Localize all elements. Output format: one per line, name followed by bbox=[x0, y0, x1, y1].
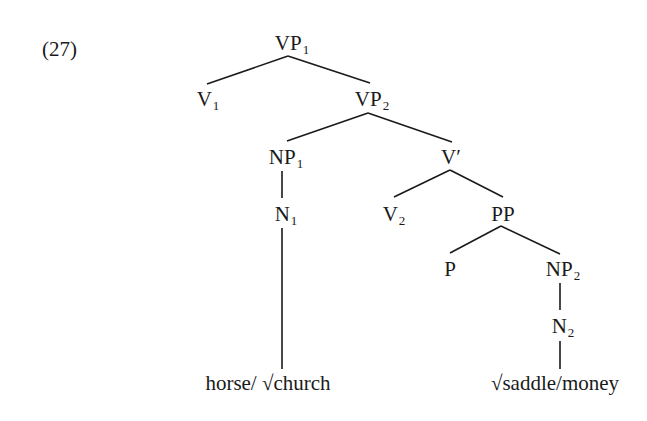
leaf-n1: horse/ √church bbox=[205, 373, 330, 394]
node-vp2-category: VP bbox=[355, 87, 382, 111]
edge-vp1-vp2 bbox=[288, 56, 370, 83]
node-p-category: P bbox=[444, 257, 456, 281]
edge-vp2-np1 bbox=[287, 113, 368, 141]
edge-vbar-pp bbox=[450, 170, 503, 197]
node-np2: NP2 bbox=[546, 259, 580, 282]
node-v1: V1 bbox=[197, 89, 220, 112]
node-v2-category: V bbox=[383, 202, 398, 226]
node-vp2-index: 2 bbox=[383, 98, 390, 113]
node-v1-index: 1 bbox=[213, 98, 220, 113]
node-np1-category: NP bbox=[269, 145, 296, 169]
node-vbar-category: V′ bbox=[441, 145, 461, 169]
node-vp1: VP1 bbox=[275, 33, 309, 56]
edge-pp-p bbox=[450, 226, 501, 253]
leaf-n2: √saddle/money bbox=[491, 373, 619, 394]
tree-edges bbox=[0, 0, 647, 421]
node-vp1-category: VP bbox=[275, 31, 302, 55]
node-n1-category: N bbox=[275, 202, 290, 226]
node-n2-index: 2 bbox=[568, 325, 575, 340]
node-vp2: VP2 bbox=[355, 89, 389, 112]
node-n2: N2 bbox=[552, 316, 575, 339]
edge-vp2-vbar bbox=[368, 113, 452, 142]
node-pp-category: PP bbox=[491, 202, 514, 226]
node-v2-index: 2 bbox=[399, 213, 406, 228]
node-n1: N1 bbox=[275, 204, 298, 227]
edge-vbar-v2 bbox=[394, 170, 450, 197]
edge-vp1-v1 bbox=[207, 56, 288, 84]
edge-pp-np2 bbox=[501, 226, 560, 254]
node-n1-index: 1 bbox=[291, 213, 298, 228]
node-vbar: V′ bbox=[441, 147, 461, 168]
node-np2-category: NP bbox=[546, 257, 573, 281]
node-vp1-index: 1 bbox=[303, 42, 310, 57]
node-np2-index: 2 bbox=[574, 268, 581, 283]
node-n2-category: N bbox=[552, 314, 567, 338]
node-pp: PP bbox=[491, 204, 514, 225]
node-np1: NP1 bbox=[269, 147, 303, 170]
node-p: P bbox=[444, 259, 456, 280]
node-v2: V2 bbox=[383, 204, 406, 227]
node-np1-index: 1 bbox=[297, 156, 304, 171]
node-v1-category: V bbox=[197, 87, 212, 111]
